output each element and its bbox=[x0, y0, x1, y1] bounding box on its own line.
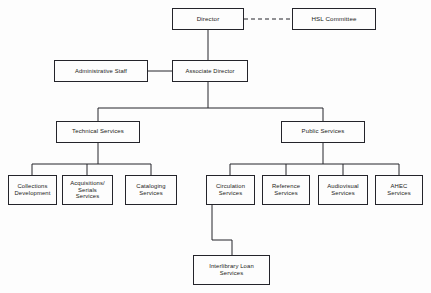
node-label-technical-services: Technical Services bbox=[70, 128, 126, 135]
node-label-circulation-services: Circulation Services bbox=[214, 183, 247, 197]
node-label-public-services: Public Services bbox=[300, 128, 347, 135]
node-label-hsl-committee: HSL Committee bbox=[309, 15, 358, 22]
node-associate-director[interactable]: Associate Director bbox=[172, 60, 248, 82]
node-label-acquisitions-serials-services: Acquisitions/ Serials Services bbox=[68, 180, 107, 201]
node-hsl-committee[interactable]: HSL Committee bbox=[292, 8, 376, 30]
node-ahec-services[interactable]: AHEC Services bbox=[375, 175, 423, 205]
node-administrative-staff[interactable]: Administrative Staff bbox=[54, 60, 148, 82]
node-acquisitions-serials-services[interactable]: Acquisitions/ Serials Services bbox=[62, 175, 113, 205]
node-label-associate-director: Associate Director bbox=[183, 68, 236, 75]
node-reference-services[interactable]: Reference Services bbox=[262, 175, 310, 205]
connector-lines bbox=[0, 0, 431, 293]
node-label-audiovisual-services: Audiovisual Services bbox=[325, 183, 360, 197]
org-chart-diagram: DirectorHSL CommitteeAdministrative Staf… bbox=[0, 0, 431, 293]
node-circulation-services[interactable]: Circulation Services bbox=[206, 175, 255, 205]
node-interlibrary-loan-services[interactable]: Interlibrary Loan Services bbox=[193, 255, 270, 285]
node-label-cataloging-services: Cataloging Services bbox=[134, 183, 167, 197]
node-technical-services[interactable]: Technical Services bbox=[56, 121, 140, 143]
node-label-ahec-services: AHEC Services bbox=[385, 183, 413, 197]
node-label-collections-development: Collections Development bbox=[12, 183, 52, 197]
node-label-reference-services: Reference Services bbox=[270, 183, 302, 197]
node-label-administrative-staff: Administrative Staff bbox=[73, 68, 129, 75]
node-label-interlibrary-loan-services: Interlibrary Loan Services bbox=[207, 263, 256, 277]
node-public-services[interactable]: Public Services bbox=[281, 121, 365, 143]
node-collections-development[interactable]: Collections Development bbox=[8, 175, 57, 205]
node-director[interactable]: Director bbox=[172, 8, 244, 30]
node-label-director: Director bbox=[195, 15, 222, 22]
node-cataloging-services[interactable]: Cataloging Services bbox=[125, 175, 177, 205]
node-audiovisual-services[interactable]: Audiovisual Services bbox=[318, 175, 368, 205]
